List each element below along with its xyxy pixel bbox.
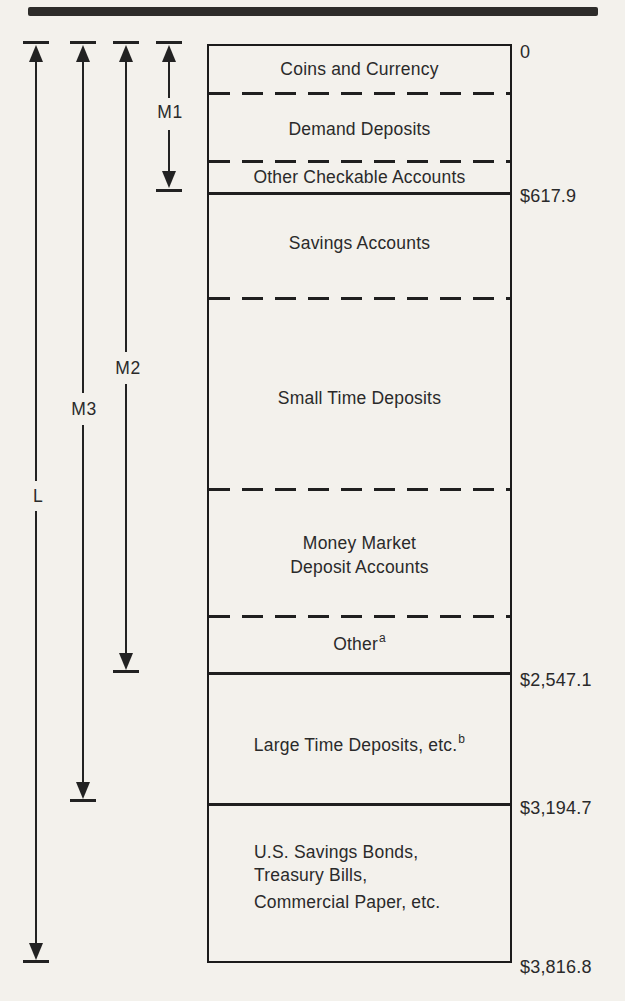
segment-other: Othera bbox=[209, 632, 510, 656]
divider-dashed bbox=[209, 297, 510, 300]
bracket-l-line bbox=[35, 511, 37, 943]
segment-other-checkable-accounts: Other Checkable Accounts bbox=[209, 165, 510, 189]
marker-617-9: $617.9 bbox=[520, 186, 576, 207]
segment-coins-and-currency: Coins and Currency bbox=[209, 57, 510, 81]
divider-dashed bbox=[209, 488, 510, 491]
bracket-m1-line bbox=[168, 59, 170, 98]
segment-line: Deposit Accounts bbox=[290, 557, 428, 577]
segment-line: Commercial Paper, etc. bbox=[254, 891, 440, 914]
divider-dashed bbox=[209, 92, 510, 95]
divider-dashed bbox=[209, 615, 510, 618]
segment-savings-accounts: Savings Accounts bbox=[209, 231, 510, 255]
money-column: Coins and Currency Demand Deposits Other… bbox=[207, 44, 512, 963]
segment-savings-bonds-bills-paper: U.S. Savings Bonds, Treasury Bills, Comm… bbox=[254, 841, 440, 914]
bracket-m1-bottom-tick bbox=[156, 189, 182, 192]
arrow-down-icon bbox=[76, 782, 90, 799]
marker-3194-7: $3,194.7 bbox=[520, 798, 592, 819]
bracket-l-line bbox=[35, 59, 37, 481]
segment-label-text: Large Time Deposits, etc. bbox=[254, 735, 457, 755]
bracket-m2-top-tick bbox=[113, 41, 139, 44]
bracket-m1-label: M1 bbox=[157, 102, 182, 123]
marker-2547-1: $2,547.1 bbox=[520, 670, 592, 691]
marker-zero: 0 bbox=[520, 42, 530, 63]
segment-small-time-deposits: Small Time Deposits bbox=[209, 386, 510, 410]
segment-line: Treasury Bills, bbox=[254, 864, 440, 887]
marker-3816-8: $3,816.8 bbox=[520, 957, 592, 978]
bracket-m1-line bbox=[168, 130, 170, 172]
bracket-m2-bottom-tick bbox=[113, 670, 139, 673]
top-rule bbox=[28, 7, 598, 16]
bracket-m3-bottom-tick bbox=[70, 799, 96, 802]
segment-label-text: Other bbox=[333, 634, 378, 654]
bracket-m3-line bbox=[82, 59, 84, 393]
segment-demand-deposits: Demand Deposits bbox=[209, 117, 510, 141]
bracket-l-label: L bbox=[33, 486, 43, 507]
figure-page: L M3 M2 M1 Coins and Currency bbox=[0, 0, 625, 1001]
segment-line: U.S. Savings Bonds, bbox=[254, 841, 440, 864]
bracket-m1-top-tick bbox=[156, 41, 182, 44]
bracket-l-bottom-tick bbox=[23, 960, 49, 963]
bracket-m3-top-tick bbox=[70, 41, 96, 44]
bracket-m3-line bbox=[82, 425, 84, 782]
segment-money-market-deposit-accounts: Money Market Deposit Accounts bbox=[209, 531, 510, 579]
arrow-down-icon bbox=[119, 653, 133, 670]
bracket-m3-label: M3 bbox=[71, 399, 96, 420]
bracket-m2-label: M2 bbox=[115, 358, 140, 379]
arrow-down-icon bbox=[162, 171, 176, 188]
divider-dashed bbox=[209, 160, 510, 163]
segment-line: Money Market bbox=[303, 533, 416, 553]
bracket-l-top-tick bbox=[23, 41, 49, 44]
segment-large-time-deposits: Large Time Deposits, etc.b bbox=[209, 733, 510, 757]
arrow-down-icon bbox=[29, 943, 43, 960]
footnote-marker-b: b bbox=[458, 732, 465, 746]
divider-solid bbox=[209, 672, 510, 675]
footnote-marker-a: a bbox=[379, 631, 386, 645]
bracket-m2-line bbox=[125, 59, 127, 352]
divider-solid bbox=[209, 192, 510, 195]
bracket-m2-line bbox=[125, 384, 127, 654]
divider-solid bbox=[209, 803, 510, 806]
